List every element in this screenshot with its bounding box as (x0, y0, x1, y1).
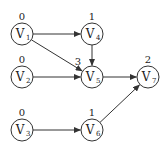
node-rank-label: 1 (89, 11, 95, 22)
node-rank-label: 0 (19, 54, 25, 65)
node-v5: V53 (75, 56, 103, 88)
node-subscript: 2 (26, 77, 30, 85)
node-label: V (15, 123, 25, 137)
node-rank-label: 3 (75, 56, 81, 67)
node-v2: V20 (11, 54, 33, 88)
nodes-group: V10V20V30V41V53V61V72 (11, 11, 159, 141)
directed-graph: V10V20V30V41V53V61V72 (0, 0, 168, 149)
node-v3: V30 (11, 107, 33, 141)
node-subscript: 5 (96, 77, 100, 85)
node-label: V (85, 70, 95, 84)
node-label: V (15, 27, 25, 41)
node-rank-label: 0 (19, 11, 25, 22)
node-v6: V61 (81, 107, 103, 141)
node-rank-label: 0 (19, 107, 25, 118)
node-rank-label: 2 (145, 54, 151, 65)
node-label: V (85, 123, 95, 137)
node-subscript: 3 (26, 130, 30, 138)
edge-v6-v7 (100, 85, 140, 123)
node-label: V (15, 70, 25, 84)
node-v4: V41 (81, 11, 103, 45)
node-v7: V72 (137, 54, 159, 88)
node-label: V (141, 70, 151, 84)
node-subscript: 4 (96, 34, 101, 42)
node-label: V (85, 27, 95, 41)
node-subscript: 1 (26, 34, 30, 42)
node-subscript: 6 (96, 130, 101, 138)
node-v1: V10 (11, 11, 33, 45)
node-subscript: 7 (152, 77, 156, 85)
node-rank-label: 1 (89, 107, 95, 118)
